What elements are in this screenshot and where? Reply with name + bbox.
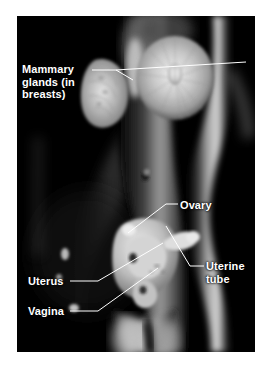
label-uterus: Uterus [28, 275, 63, 288]
nipple [168, 63, 182, 85]
ovary-structure [122, 224, 136, 236]
label-uterine-tube: Uterine tube [206, 260, 270, 285]
mammary-gland-frontal-structure [136, 36, 214, 120]
label-ovary: Ovary [180, 199, 212, 212]
anatomy-figure: Mammary glands (in breasts) Ovary Uterin… [0, 0, 277, 370]
label-vagina: Vagina [28, 305, 64, 318]
label-mammary-glands: Mammary glands (in breasts) [22, 63, 108, 101]
